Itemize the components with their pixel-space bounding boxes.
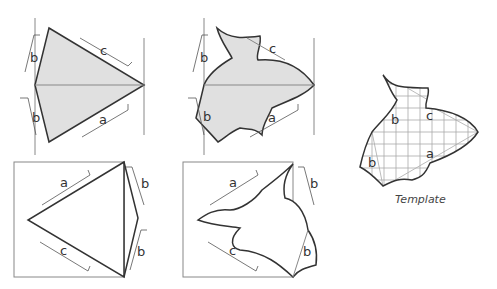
panel-curved-split: b b c a [188, 18, 314, 155]
panel-triangle-boxed: a b c b [14, 162, 149, 277]
template-shape: b c b a Template [355, 70, 480, 206]
label-c: c [60, 243, 67, 258]
label-a: a [60, 175, 68, 190]
label-b: b [30, 50, 38, 65]
label-b: b [141, 176, 149, 191]
label-b: b [137, 244, 145, 259]
label-b: b [203, 109, 211, 124]
label-b: b [391, 112, 399, 127]
diagram-canvas: b b c a b b c a a b c b [0, 0, 497, 289]
label-a: a [426, 146, 434, 161]
label-a: a [99, 112, 107, 127]
label-b: b [32, 110, 40, 125]
label-b: b [303, 244, 311, 259]
panel-triangle-split: b b c a [20, 18, 144, 155]
template-caption: Template [395, 193, 446, 206]
label-c: c [229, 243, 236, 258]
label-a: a [229, 175, 237, 190]
label-c: c [426, 108, 433, 123]
panel-curved-boxed: a b c b [183, 162, 318, 277]
label-c: c [269, 41, 276, 56]
label-b: b [200, 50, 208, 65]
label-a: a [268, 110, 276, 125]
label-c: c [100, 43, 107, 58]
label-b: b [310, 176, 318, 191]
label-b: b [368, 155, 376, 170]
